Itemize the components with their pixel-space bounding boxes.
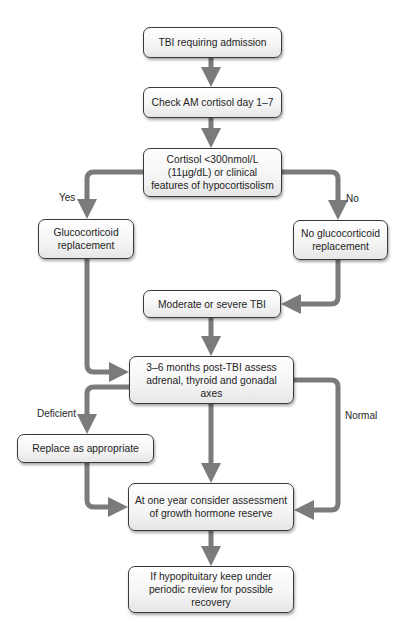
- node-moderate-severe-tbi: Moderate or severe TBI: [143, 290, 281, 318]
- arrow-gluco-to-assess: [87, 259, 120, 372]
- edge-label-deficient: Deficient: [37, 408, 76, 419]
- node-text: Replace as appropriate: [32, 442, 138, 455]
- node-text: Cortisol <300nmol/L (11µg/dL) or clinica…: [148, 153, 277, 192]
- node-periodic-review: If hypopituitary keep under periodic rev…: [128, 566, 294, 613]
- arrow-decision-no: [282, 172, 338, 211]
- node-text: 3–6 months post-TBI assess adrenal, thyr…: [134, 361, 289, 400]
- node-growth-hormone: At one year consider assessment of growt…: [128, 483, 294, 531]
- node-glucocorticoid-replacement: Glucocorticoid replacement: [38, 219, 134, 259]
- node-no-glucocorticoid-replacement: No glucocorticoid replacement: [293, 220, 388, 260]
- node-text: Moderate or severe TBI: [158, 298, 266, 311]
- arrow-replace-to-growth: [87, 463, 119, 507]
- arrow-decision-yes: [87, 172, 143, 210]
- node-check-cortisol: Check AM cortisol day 1–7: [143, 87, 282, 118]
- node-text: No glucocorticoid replacement: [298, 227, 383, 253]
- edge-label-yes: Yes: [59, 192, 75, 203]
- node-text: At one year consider assessment of growt…: [133, 494, 289, 520]
- arrow-no-gluco-to-moderate: [290, 260, 338, 304]
- node-replace-as-appropriate: Replace as appropriate: [17, 434, 154, 463]
- node-text: Check AM cortisol day 1–7: [152, 96, 274, 109]
- node-text: Glucocorticoid replacement: [43, 226, 129, 252]
- edge-label-normal: Normal: [345, 410, 377, 421]
- arrow-assess-normal: [294, 380, 338, 510]
- node-tbi-admission: TBI requiring admission: [143, 27, 282, 58]
- node-assess-axes: 3–6 months post-TBI assess adrenal, thyr…: [129, 356, 294, 404]
- edge-label-no: No: [346, 193, 359, 204]
- node-text: TBI requiring admission: [158, 36, 266, 49]
- arrow-assess-deficient: [87, 387, 129, 425]
- node-text: If hypopituitary keep under periodic rev…: [133, 570, 289, 609]
- node-cortisol-decision: Cortisol <300nmol/L (11µg/dL) or clinica…: [143, 148, 282, 197]
